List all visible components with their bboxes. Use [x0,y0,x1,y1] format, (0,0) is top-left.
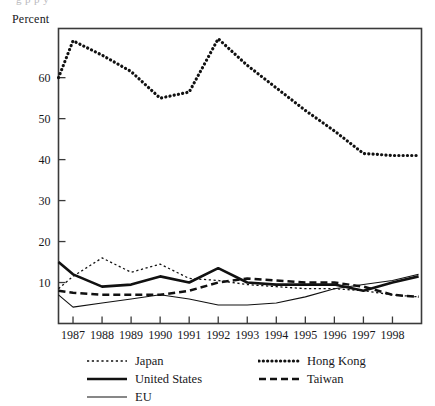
svg-text:1991: 1991 [177,328,201,342]
legend-item-hong-kong[interactable]: Hong Kong [258,352,366,370]
series-line-hong-kong [59,39,419,156]
svg-text:20: 20 [39,235,51,249]
legend-item-taiwan[interactable]: Taiwan [258,370,366,388]
legend-swatch-thick-solid-icon [86,373,128,385]
figure-container: g p p y Percent 102030405060 19871988198… [0,0,435,406]
legend-swatch-fine-dotted-icon [86,355,128,367]
svg-text:1992: 1992 [206,328,230,342]
svg-text:50: 50 [39,112,51,126]
legend-label: United States [135,373,202,386]
legend-item-united-states[interactable]: United States [86,370,202,388]
line-chart-plot: 102030405060 198719881989199019911992199… [0,0,435,348]
y-axis-ticks: 102030405060 [39,71,66,290]
data-series-group [59,39,419,307]
svg-text:40: 40 [39,153,51,167]
svg-text:1995: 1995 [293,328,317,342]
svg-text:1989: 1989 [119,328,143,342]
svg-text:30: 30 [39,194,51,208]
legend-item-japan[interactable]: Japan [86,352,202,370]
legend-item-eu[interactable]: EU [86,388,202,406]
svg-text:1994: 1994 [264,328,288,342]
svg-text:60: 60 [39,71,51,85]
svg-text:10: 10 [39,276,51,290]
legend-label: Taiwan [307,373,344,386]
legend-column-left: JapanUnited StatesEU [86,352,202,406]
svg-text:1993: 1993 [235,328,259,342]
legend-swatch-thin-solid-icon [86,391,128,403]
svg-text:1997: 1997 [351,328,375,342]
legend-label: Japan [135,355,163,368]
legend-swatch-dashed-icon [258,373,300,385]
legend-label: Hong Kong [307,355,366,368]
legend-column-right: Hong KongTaiwan [258,352,366,388]
svg-text:1987: 1987 [61,328,85,342]
legend-swatch-thick-dotted-icon [258,355,300,367]
svg-text:1996: 1996 [322,328,346,342]
svg-text:1988: 1988 [90,328,114,342]
svg-text:1990: 1990 [148,328,172,342]
x-axis-ticks: 1987198819891990199119921993199419951996… [61,317,404,342]
svg-text:1998: 1998 [380,328,404,342]
legend-label: EU [135,391,152,404]
series-line-taiwan [59,278,419,296]
